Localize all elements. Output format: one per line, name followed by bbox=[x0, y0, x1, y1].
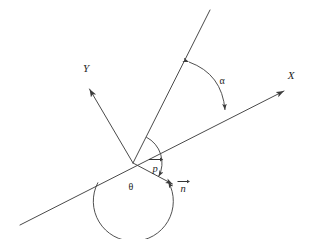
geometry-diagram: X Y α θ p n bbox=[0, 0, 310, 239]
x-axis-line bbox=[20, 91, 284, 225]
y-axis-label: Y bbox=[83, 62, 91, 74]
vector-n-label: n bbox=[180, 183, 185, 194]
vector-n-label-group: n bbox=[178, 180, 191, 194]
incident-ray-line bbox=[133, 10, 210, 163]
geometry-canvas: X Y α θ p n bbox=[0, 0, 310, 239]
alpha-arc bbox=[189, 62, 225, 110]
theta-label: θ bbox=[129, 181, 134, 192]
vector-n-overbar-arrowhead bbox=[187, 180, 190, 184]
x-axis-label: X bbox=[287, 69, 296, 81]
vector-p-label: p bbox=[151, 163, 157, 174]
y-axis-line bbox=[90, 89, 134, 163]
alpha-label: α bbox=[219, 75, 225, 86]
